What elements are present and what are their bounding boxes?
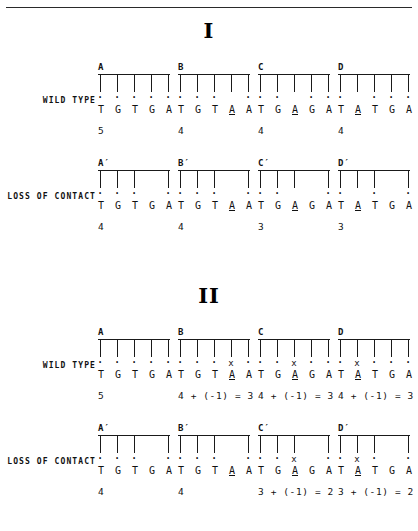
dna-sequence: TGTAA xyxy=(178,103,250,117)
contact-dot-icon: · xyxy=(175,358,185,366)
contact-dot-icon: · xyxy=(255,358,265,366)
mutated-base: A xyxy=(226,199,238,212)
contact-dot-icon: · xyxy=(243,454,253,462)
sequence-cell: B′····TGTAA4 xyxy=(176,423,258,497)
base: T xyxy=(129,199,141,212)
base: T xyxy=(369,103,381,116)
lost-contact-x-icon: x xyxy=(289,454,299,464)
contact-score: 4 + (-1) = 3 xyxy=(336,382,418,401)
contact-dot-icon: · xyxy=(129,189,139,197)
contact-dot-icon: · xyxy=(112,189,122,197)
row-label: WILD TYPE xyxy=(0,96,96,105)
contact-dot-icon: · xyxy=(175,454,185,462)
comb-tooth xyxy=(231,74,232,92)
contact-dot-icon: · xyxy=(163,189,173,197)
base: G xyxy=(272,103,284,116)
contact-marks: ·x··· xyxy=(338,358,410,368)
contact-dot-icon: · xyxy=(175,189,185,197)
cell-title: B xyxy=(176,62,258,74)
base: G xyxy=(272,368,284,381)
contact-dot-icon: · xyxy=(335,454,345,462)
mutated-base: A xyxy=(352,103,364,116)
contact-dot-icon: · xyxy=(369,93,379,101)
mutated-base: A xyxy=(352,199,364,212)
dna-sequence: TGTGA xyxy=(98,199,170,213)
base: T xyxy=(335,199,347,212)
base: T xyxy=(129,464,141,477)
base: G xyxy=(386,103,398,116)
comb-tooth xyxy=(294,74,295,92)
contact-dot-icon: · xyxy=(112,454,122,462)
contact-dot-icon: · xyxy=(323,189,333,197)
base: T xyxy=(209,464,221,477)
dna-sequence: TATGA xyxy=(338,103,410,117)
base: A xyxy=(243,464,255,477)
contact-dot-icon: · xyxy=(243,93,253,101)
cell-title: B′ xyxy=(176,423,258,435)
base: G xyxy=(386,464,398,477)
cell-title: D xyxy=(336,62,418,74)
contact-marks: ···· xyxy=(178,189,250,199)
base: A xyxy=(163,464,175,477)
row-label: LOSS OF CONTACT xyxy=(0,457,96,466)
contact-dot-icon: · xyxy=(129,454,139,462)
base: A xyxy=(163,103,175,116)
mutated-base: A xyxy=(289,199,301,212)
contact-dot-icon: · xyxy=(112,93,122,101)
cell-title: A′ xyxy=(96,158,178,170)
mutated-base: A xyxy=(289,368,301,381)
contact-dot-icon: · xyxy=(112,358,122,366)
comb-tooth xyxy=(294,170,295,188)
sequence-cell: D′·x··TATGA3 + (-1) = 2 xyxy=(336,423,418,497)
contact-dot-icon: · xyxy=(403,454,413,462)
diagram-row: WILD TYPEA·····TGTGA5B···x·TGTAA4 + (-1)… xyxy=(0,327,418,419)
base: A xyxy=(243,368,255,381)
base: G xyxy=(306,368,318,381)
base: T xyxy=(175,368,187,381)
row-label: WILD TYPE xyxy=(0,361,96,370)
panel-numeral: II xyxy=(0,283,418,308)
base: G xyxy=(112,368,124,381)
sequence-cell: A′····TGTGA4 xyxy=(96,158,178,232)
cell-title: B′ xyxy=(176,158,258,170)
contact-dot-icon: · xyxy=(255,93,265,101)
base: G xyxy=(112,464,124,477)
contact-dot-icon: · xyxy=(403,93,413,101)
mutated-base: A xyxy=(289,103,301,116)
base: A xyxy=(243,199,255,212)
sequence-cell: C····TGAGA4 xyxy=(256,62,338,136)
contact-marks: ····· xyxy=(98,358,170,368)
contact-dot-icon: · xyxy=(129,358,139,366)
contact-marks: ···· xyxy=(98,454,170,464)
contact-marks: ··x·· xyxy=(258,358,330,368)
contact-dot-icon: · xyxy=(369,189,379,197)
contact-score: 4 xyxy=(96,213,178,232)
contact-dot-icon: · xyxy=(306,93,316,101)
contact-dot-icon: · xyxy=(335,189,345,197)
cell-title: C′ xyxy=(256,158,338,170)
contact-dot-icon: · xyxy=(192,93,202,101)
mutated-base: A xyxy=(289,464,301,477)
contact-score: 3 xyxy=(336,213,418,232)
sequence-cell: B···x·TGTAA4 + (-1) = 3 xyxy=(176,327,258,401)
contact-dot-icon: · xyxy=(209,358,219,366)
sequence-cell: C′···TGAGA3 xyxy=(256,158,338,232)
base: T xyxy=(335,368,347,381)
dna-sequence: TGAGA xyxy=(258,464,330,478)
contact-score: 4 + (-1) = 3 xyxy=(256,382,338,401)
contact-marks: ···· xyxy=(178,93,250,103)
base: T xyxy=(129,103,141,116)
contact-dot-icon: · xyxy=(255,189,265,197)
contact-dot-icon: · xyxy=(95,454,105,462)
cell-title: C xyxy=(256,327,338,339)
cell-title: D′ xyxy=(336,158,418,170)
sequence-cell: C′··x·TGAGA3 + (-1) = 2 xyxy=(256,423,338,497)
base: T xyxy=(95,199,107,212)
base: G xyxy=(272,199,284,212)
base: A xyxy=(163,199,175,212)
base: T xyxy=(255,199,267,212)
contact-dot-icon: · xyxy=(323,358,333,366)
comb-tooth xyxy=(294,339,295,357)
contact-score: 4 xyxy=(256,117,338,136)
lost-contact-x-icon: x xyxy=(289,358,299,368)
